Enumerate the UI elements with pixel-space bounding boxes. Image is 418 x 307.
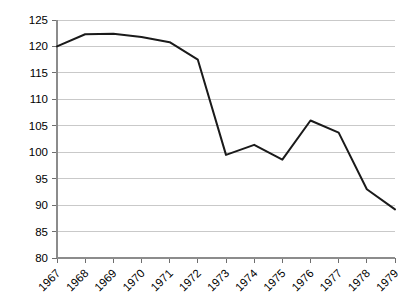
x-tick-label: 1979	[374, 267, 401, 294]
gridlines	[52, 20, 395, 258]
y-tick-label: 105	[29, 120, 48, 132]
x-tick-label: 1973	[205, 267, 232, 294]
x-tick-label: 1968	[64, 267, 91, 294]
x-tick-label: 1978	[346, 267, 373, 294]
y-tick-label: 80	[35, 252, 48, 264]
x-tick-label: 1976	[289, 267, 316, 294]
y-tick-label: 115	[30, 67, 48, 79]
x-tick-label: 1969	[92, 267, 119, 294]
x-tick-label: 1977	[317, 267, 344, 294]
y-tick-label: 120	[29, 40, 48, 52]
y-tick-label: 95	[35, 173, 48, 185]
y-tick-label: 100	[29, 146, 48, 158]
x-tick-label: 1971	[148, 267, 175, 294]
x-tick-label: 1975	[261, 267, 288, 294]
x-tick-label: 1974	[233, 267, 260, 294]
x-axis-tick-labels: 1967196819691970197119721973197419751976…	[36, 267, 401, 294]
data-series-line	[57, 34, 395, 210]
x-tick-label: 1967	[36, 267, 63, 294]
y-tick-label: 90	[35, 199, 48, 211]
chart-canvas: 80859095100105110115120125 1967196819691…	[0, 0, 418, 307]
line-chart-figure: 80859095100105110115120125 1967196819691…	[0, 0, 418, 307]
y-tick-label: 85	[35, 226, 48, 238]
x-tick-label: 1970	[120, 267, 147, 294]
y-tick-label: 125	[29, 14, 48, 26]
y-tick-label: 110	[30, 93, 48, 105]
x-tick-label: 1972	[177, 267, 204, 294]
y-axis-tick-labels: 80859095100105110115120125	[29, 14, 48, 264]
